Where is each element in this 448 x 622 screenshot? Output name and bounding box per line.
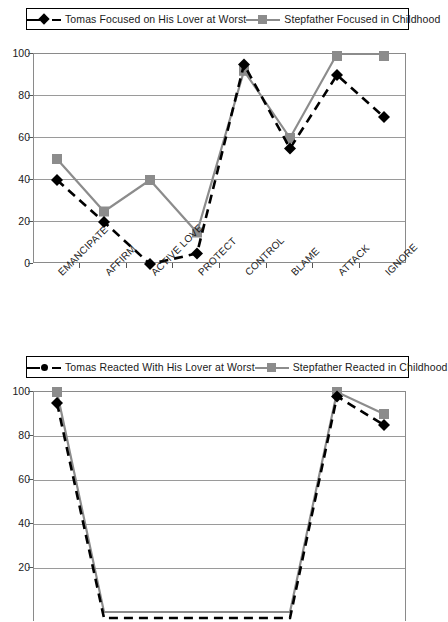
dashed-diamond-line-icon xyxy=(27,14,61,25)
chart-focused: Tomas Focused on His Lover at Worst Step… xyxy=(0,0,420,318)
legend-item-stepfather-focused: Stepfather Focused in Childhood xyxy=(246,14,440,25)
series-markers-stepfather-reacted xyxy=(52,387,389,419)
legend-label-stepfather-reacted: Stepfather Reacted in Childhood xyxy=(293,362,448,373)
legend-label-tomas-reacted: Tomas Reacted With His Lover at Worst xyxy=(65,362,255,373)
series-line-stepfather-focused xyxy=(57,54,384,233)
series-line-tomas-reacted xyxy=(57,396,384,618)
chart-focused-series xyxy=(34,54,407,264)
chart-reacted-series xyxy=(34,392,407,622)
chart-reacted-legend: Tomas Reacted With His Lover at Worst St… xyxy=(26,356,409,378)
chart-focused-legend: Tomas Focused on His Lover at Worst Step… xyxy=(26,8,409,30)
chart-reacted-plot-area xyxy=(33,391,406,621)
legend-item-tomas-reacted: Tomas Reacted With His Lover at Worst xyxy=(27,362,255,373)
solid-square-line-icon xyxy=(246,14,280,25)
solid-square-line-icon xyxy=(255,362,289,373)
dashed-circle-line-icon xyxy=(27,362,61,373)
chart-focused-y-axis: 100 80 60 40 20 0 xyxy=(0,53,30,263)
chart-reacted-y-axis: 100 80 60 40 20 xyxy=(0,391,30,621)
legend-item-tomas-focused: Tomas Focused on His Lover at Worst xyxy=(27,14,246,25)
series-markers-tomas-reacted xyxy=(51,390,390,431)
series-line-stepfather-reacted xyxy=(57,392,384,612)
chart-focused-plot-area xyxy=(33,53,406,263)
legend-label-tomas-focused: Tomas Focused on His Lover at Worst xyxy=(65,14,246,25)
chart-reacted: Tomas Reacted With His Lover at Worst St… xyxy=(0,330,420,586)
legend-item-stepfather-reacted: Stepfather Reacted in Childhood xyxy=(255,362,448,373)
legend-label-stepfather-focused: Stepfather Focused in Childhood xyxy=(284,14,440,25)
